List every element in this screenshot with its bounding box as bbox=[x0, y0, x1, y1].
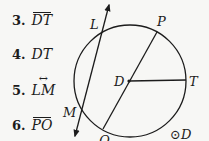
label-T: T bbox=[189, 74, 199, 89]
label-M: M bbox=[62, 105, 77, 120]
circle-figure: L P D T M Q ⊙D bbox=[0, 0, 209, 141]
radius-DT bbox=[129, 80, 186, 81]
label-P: P bbox=[156, 14, 166, 29]
label-L: L bbox=[89, 17, 99, 32]
label-D: D bbox=[113, 74, 125, 89]
center-point-D bbox=[127, 79, 130, 82]
label-Q: Q bbox=[99, 133, 110, 141]
circle-label: ⊙D bbox=[170, 127, 192, 141]
